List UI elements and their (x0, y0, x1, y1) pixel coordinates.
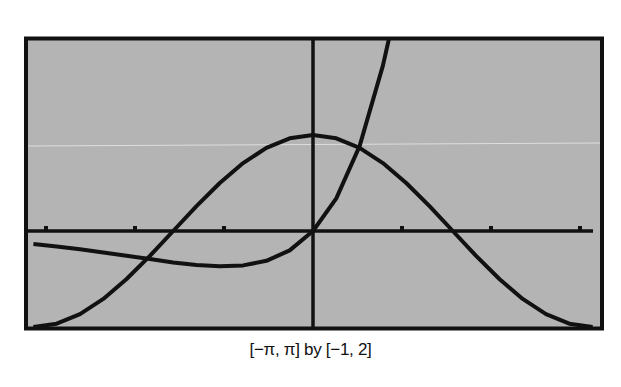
x-tick (578, 226, 582, 231)
x-tick (44, 226, 48, 231)
graph-figure (0, 0, 621, 387)
x-tick (400, 226, 404, 231)
window-caption: [−π, π] by [−1, 2] (0, 340, 621, 360)
x-tick (489, 226, 493, 231)
x-tick (133, 226, 137, 231)
x-tick (222, 226, 226, 231)
